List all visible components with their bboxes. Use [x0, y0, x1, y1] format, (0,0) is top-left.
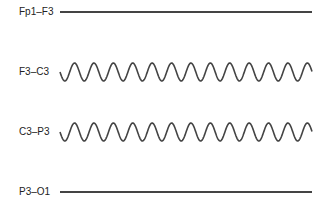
eeg-traces [0, 0, 320, 197]
trace-f3-c3-sine [60, 63, 312, 81]
trace-c3-p3-sine [60, 123, 312, 141]
